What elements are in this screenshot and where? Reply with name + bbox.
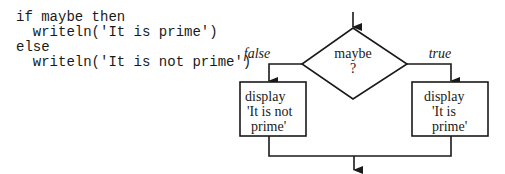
box-false-line1: display xyxy=(245,89,285,104)
box-false-line2: 'It is not xyxy=(247,104,292,119)
true-branch-connector xyxy=(407,64,451,81)
box-true-line3: prime' xyxy=(432,119,467,134)
merge-connector xyxy=(269,136,451,156)
decision-text-line1: maybe xyxy=(334,46,371,61)
box-true-line2: 'It is xyxy=(432,104,456,119)
false-branch-connector xyxy=(269,64,302,81)
false-label: false xyxy=(244,46,270,61)
box-false-line3: prime' xyxy=(251,119,286,134)
flowchart: maybe ? false true display 'It is not pr… xyxy=(0,0,505,174)
box-true-line1: display xyxy=(424,89,464,104)
decision-text-line2: ? xyxy=(350,61,356,76)
true-label: true xyxy=(429,46,452,61)
